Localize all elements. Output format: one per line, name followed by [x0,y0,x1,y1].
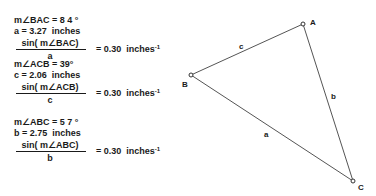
side-c-label: c [239,42,244,51]
side-a-segment[interactable] [191,75,353,181]
vertex-b-point[interactable] [189,73,193,77]
vertex-c-label: C [358,183,364,192]
side-b-segment[interactable] [303,24,353,181]
triangle-diagram: A B C c b a [0,0,376,196]
vertex-a-point[interactable] [301,22,305,26]
vertex-a-label: A [310,18,316,27]
vertex-c-point[interactable] [351,179,355,183]
vertex-b-label: B [182,80,188,89]
side-a-label: a [264,130,269,139]
side-b-label: b [331,92,336,101]
side-c-segment[interactable] [191,24,303,75]
